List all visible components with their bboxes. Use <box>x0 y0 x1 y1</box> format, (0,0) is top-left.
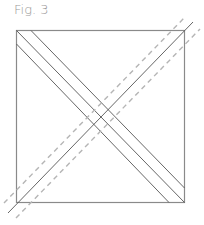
diagonal-line-lower <box>17 44 170 203</box>
dashed-line-upper <box>4 16 186 203</box>
diagram-canvas <box>0 0 204 225</box>
